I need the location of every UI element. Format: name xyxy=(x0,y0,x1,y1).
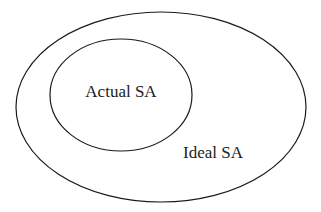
ideal-sa-label: Ideal SA xyxy=(183,143,244,162)
ideal-sa-ellipse xyxy=(16,12,306,202)
actual-sa-label: Actual SA xyxy=(85,82,157,101)
sa-diagram: Actual SA Ideal SA xyxy=(0,0,321,212)
